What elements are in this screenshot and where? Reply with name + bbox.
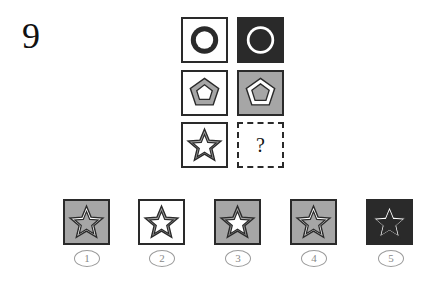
circle-icon: [183, 19, 226, 61]
option-5[interactable]: [366, 199, 413, 245]
grid-cell-r2c2: [237, 70, 284, 116]
pentagon-icon: [239, 72, 282, 114]
option-5-label[interactable]: 5: [378, 250, 404, 267]
option-3-label[interactable]: 3: [225, 250, 251, 267]
option-4[interactable]: [290, 199, 337, 245]
star-icon: [216, 201, 259, 243]
star-icon: [140, 201, 183, 243]
option-2-label[interactable]: 2: [149, 250, 175, 267]
grid-cell-r1c2: [237, 17, 284, 63]
option-1[interactable]: [63, 199, 110, 245]
option-1-label[interactable]: 1: [74, 250, 100, 267]
grid-cell-r3c1: [181, 122, 228, 168]
pentagon-icon: [183, 72, 226, 114]
star-icon: [292, 201, 335, 243]
star-icon: [183, 124, 226, 166]
grid-cell-missing: ?: [237, 122, 284, 168]
circle-icon: [239, 19, 282, 61]
option-2[interactable]: [138, 199, 185, 245]
grid-cell-r1c1: [181, 17, 228, 63]
star-icon: [368, 201, 411, 243]
star-icon: [65, 201, 108, 243]
question-number: 9: [22, 18, 40, 54]
option-4-label[interactable]: 4: [301, 250, 327, 267]
question-mark: ?: [239, 134, 282, 157]
grid-cell-r2c1: [181, 70, 228, 116]
option-3[interactable]: [214, 199, 261, 245]
